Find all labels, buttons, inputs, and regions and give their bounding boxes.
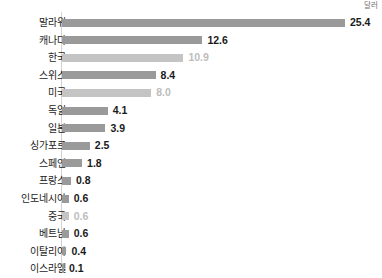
bar-row: 한국10.9 [0, 49, 382, 67]
value-label: 25.4 [350, 15, 370, 30]
bar [62, 107, 108, 115]
category-label: 싱가포르 [10, 138, 66, 153]
category-label: 이탈리아 [10, 244, 66, 259]
value-label: 0.6 [74, 191, 89, 206]
bar-row: 이스라엘0.1 [0, 260, 382, 278]
category-label: 베트남 [10, 226, 66, 241]
bar-row: 이탈리아0.4 [0, 243, 382, 261]
bar-row: 베트남0.6 [0, 225, 382, 243]
bar [62, 54, 183, 62]
bar [62, 89, 151, 97]
value-label: 8.0 [156, 85, 171, 100]
value-label: 0.8 [76, 173, 91, 188]
value-label: 0.6 [74, 226, 89, 241]
bar-row: 독일4.1 [0, 102, 382, 120]
category-label: 한국 [10, 50, 66, 65]
unit-caption: 달러 [364, 1, 378, 11]
value-label: 10.9 [188, 50, 208, 65]
value-label: 8.4 [161, 68, 176, 83]
value-label: 0.1 [69, 261, 84, 276]
bar-chart: 달러 말라위25.4캐나다12.6한국10.9스위스8.4미국8.0독일4.1일… [0, 0, 382, 278]
value-label: 0.4 [71, 244, 86, 259]
category-label: 중국 [10, 209, 66, 224]
bar [62, 142, 90, 150]
bar-row: 스페인1.8 [0, 155, 382, 173]
bar-row: 인도네시아0.6 [0, 190, 382, 208]
bar [62, 265, 64, 273]
category-label: 미국 [10, 85, 66, 100]
bar-row: 일본3.9 [0, 120, 382, 138]
category-label: 일본 [10, 121, 66, 136]
value-label: 3.9 [110, 121, 125, 136]
category-label: 인도네시아 [10, 191, 66, 206]
bar-row: 싱가포르2.5 [0, 137, 382, 155]
value-label: 4.1 [113, 103, 128, 118]
plot-area: 말라위25.4캐나다12.6한국10.9스위스8.4미국8.0독일4.1일본3.… [0, 12, 382, 274]
bar-row: 말라위25.4 [0, 14, 382, 32]
bar-row: 프랑스0.8 [0, 172, 382, 190]
bar [62, 177, 71, 185]
category-label: 독일 [10, 103, 66, 118]
bar [62, 159, 82, 167]
bar [62, 71, 156, 79]
value-label: 1.8 [87, 156, 102, 171]
bar-row: 캐나다12.6 [0, 32, 382, 50]
bar [62, 212, 69, 220]
bar-row: 중국0.6 [0, 208, 382, 226]
bar [62, 19, 345, 27]
value-label: 2.5 [95, 138, 110, 153]
value-label: 12.6 [207, 33, 227, 48]
category-label: 스페인 [10, 156, 66, 171]
category-label: 프랑스 [10, 173, 66, 188]
bar [62, 247, 66, 255]
bar [62, 195, 69, 203]
value-label: 0.6 [74, 209, 89, 224]
bar-row: 미국8.0 [0, 84, 382, 102]
category-label: 스위스 [10, 68, 66, 83]
category-label: 이스라엘 [10, 261, 66, 276]
bar [62, 124, 105, 132]
category-label: 말라위 [10, 15, 66, 30]
category-label: 캐나다 [10, 33, 66, 48]
bar [62, 230, 69, 238]
bar-row: 스위스8.4 [0, 67, 382, 85]
bar [62, 36, 202, 44]
